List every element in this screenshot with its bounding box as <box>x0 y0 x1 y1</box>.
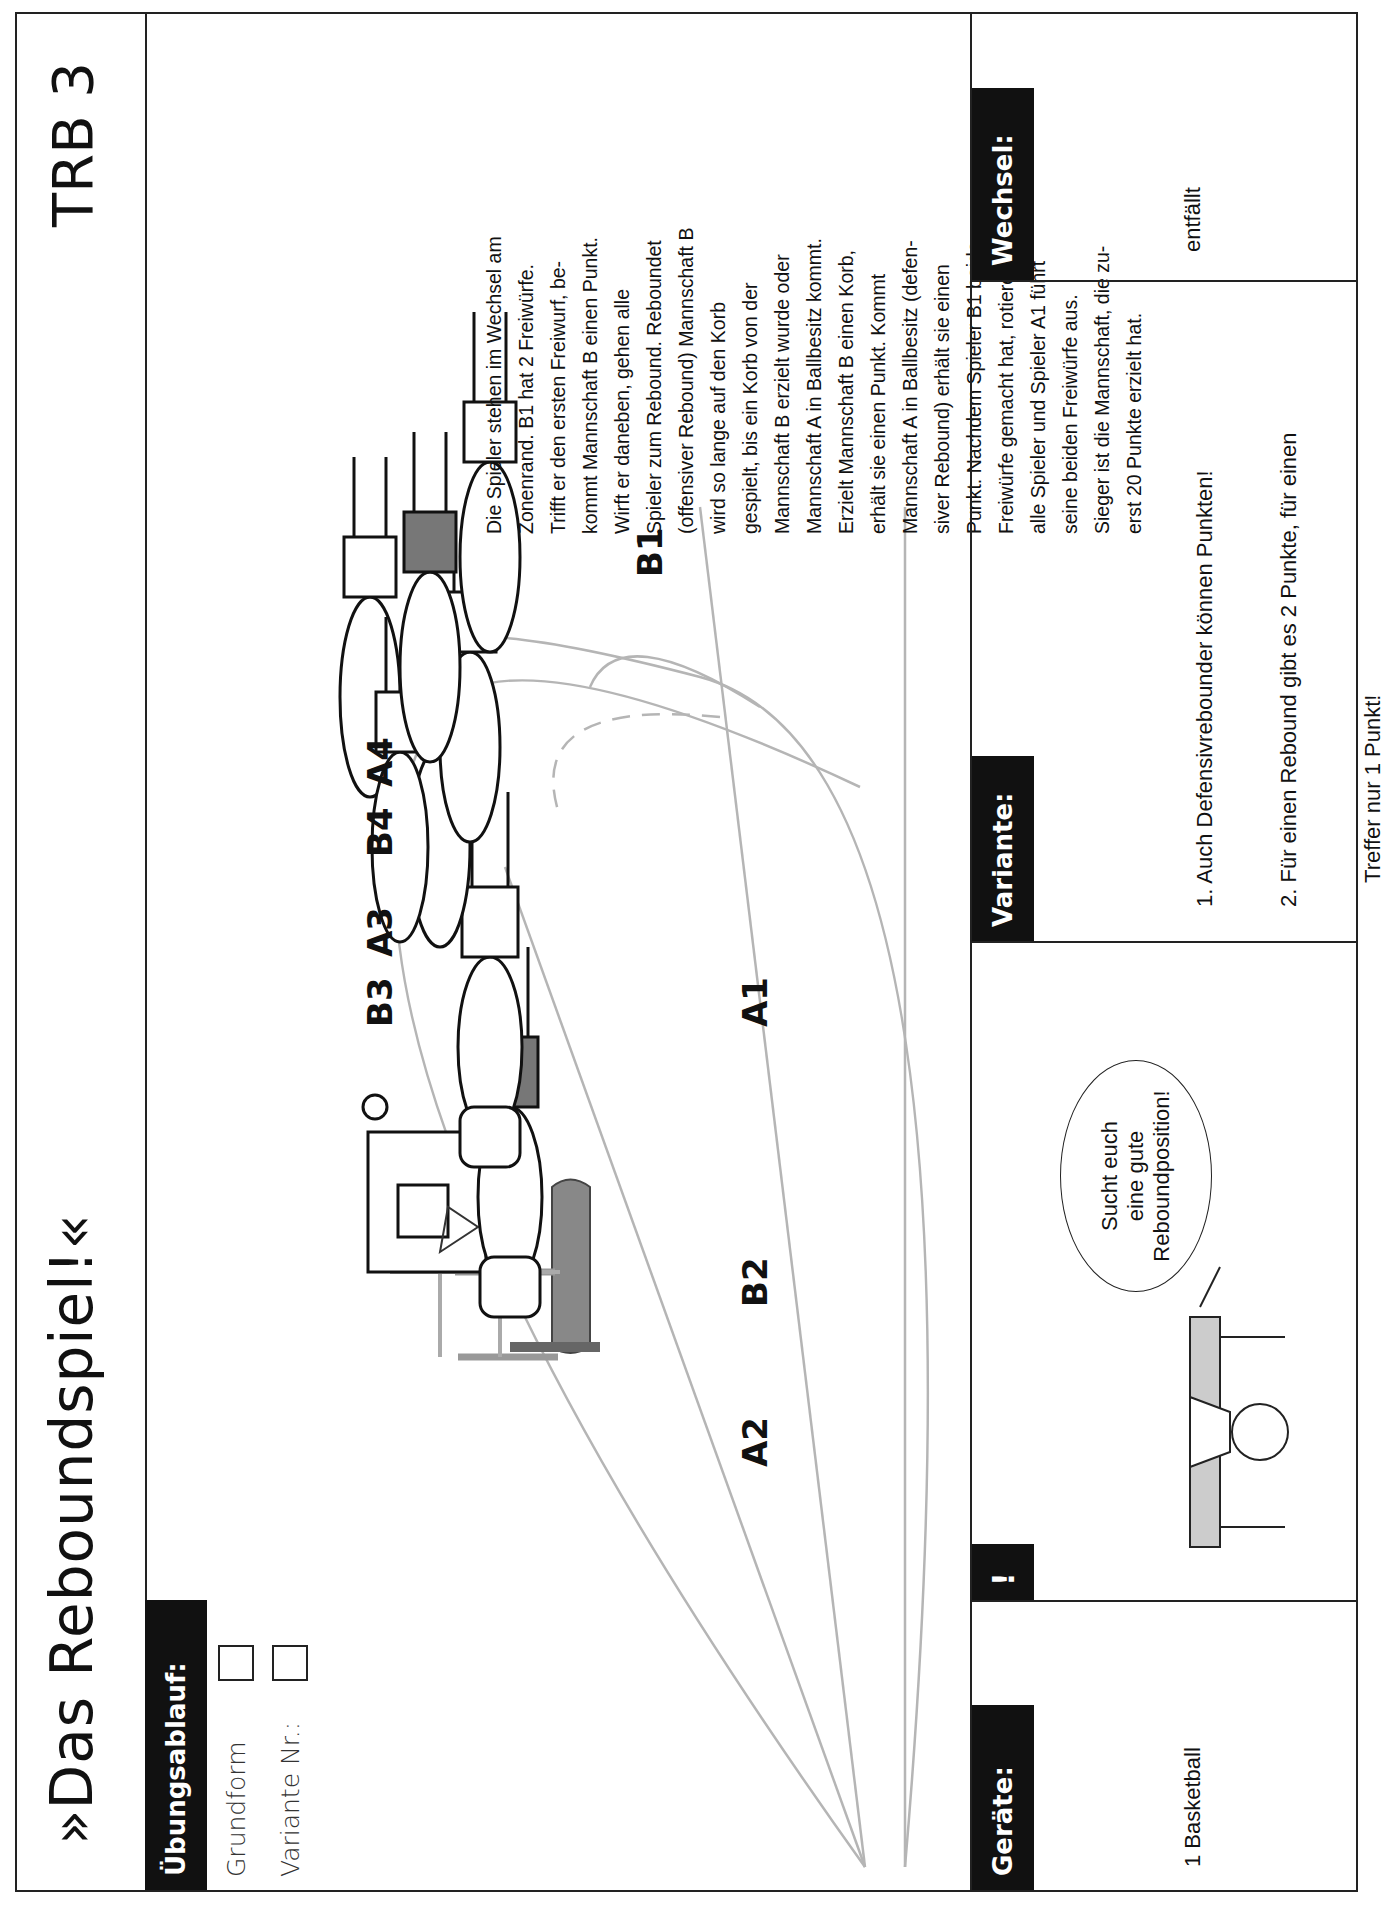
variante-list: 1. Auch Defensivrebounder können Punkten… <box>1135 432 1385 907</box>
wechsel-text: entfällt <box>1180 187 1206 252</box>
variante-item: 1. Auch Defensivrebounder können Punkten… <box>1191 432 1219 907</box>
variante-heading: Variante: <box>972 756 1034 941</box>
variante-item: 2. Für einen Rebound gibt es 2 Punkte, f… <box>1275 432 1303 907</box>
variante-item: Treffer nur 1 Punkt! <box>1359 432 1385 907</box>
wechsel-heading: Wechsel: <box>972 88 1034 280</box>
